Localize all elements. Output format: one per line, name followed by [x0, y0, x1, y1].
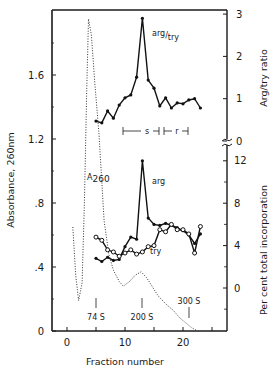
right-upper-tick-label: 1: [236, 93, 242, 104]
try-label: try: [150, 247, 161, 256]
series-arg-try: [94, 17, 202, 125]
chart: 0.4.81.21.6 012304812 01020 Absorbance, …: [0, 0, 277, 371]
range-s-label: s: [145, 127, 149, 136]
series-try: [94, 222, 202, 258]
right-upper-tick-label: 2: [236, 51, 242, 62]
y-axis-left-title: Absorbance, 260nm: [5, 132, 16, 228]
y-axis-right-upper-title: Arg/try ratio: [258, 49, 269, 107]
left-tick-label: 0: [38, 326, 44, 337]
left-tick-label: 1.2: [28, 134, 44, 145]
x-tick-label: 20: [177, 337, 190, 348]
right-lower-tick-label: 0: [234, 283, 240, 294]
right-upper-tick-label: 0: [236, 136, 242, 147]
marker-300s: 300 S: [178, 297, 201, 306]
right-lower-tick-label: 8: [234, 198, 240, 209]
left-tick-label: .8: [34, 198, 44, 209]
right-lower-tick-label: 4: [234, 240, 240, 251]
left-tick-label: .4: [34, 262, 44, 273]
x-tick-label: 0: [64, 337, 70, 348]
x-axis: 01020: [64, 327, 212, 348]
marker-200s: 200 S: [131, 313, 154, 322]
marker-74s: 74 S: [87, 313, 105, 322]
x-axis-title: Fraction number: [86, 356, 164, 367]
arg-try-label: arg/try: [152, 29, 179, 42]
right-lower-tick-label: 12: [234, 155, 247, 166]
range-r-label: r: [175, 127, 179, 136]
x-tick-label: 10: [119, 337, 132, 348]
right-upper-tick-label: 3: [236, 9, 242, 20]
y-axis-right-lower-title: Per cent total incorporation: [258, 185, 269, 315]
a260-label: A260: [87, 173, 110, 184]
arg-label: arg: [152, 177, 165, 186]
left-tick-label: 1.6: [28, 70, 44, 81]
